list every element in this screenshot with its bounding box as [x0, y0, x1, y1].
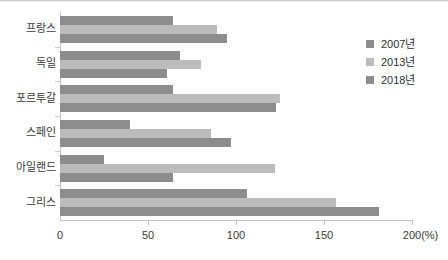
y-axis-tick: [55, 47, 61, 48]
y-axis-label-5: 그리스: [0, 197, 56, 208]
x-axis-label-200: 200(%): [403, 229, 438, 241]
bar-그리스-2018년: [60, 207, 379, 216]
bar-그리스-2013년: [60, 198, 336, 207]
x-axis-tick-150: [324, 220, 325, 225]
bar-스페인-2013년: [60, 129, 211, 138]
legend-swatch-icon: [366, 76, 374, 84]
bar-독일-2007년: [60, 51, 180, 60]
legend-label: 2013년: [381, 56, 415, 68]
bar-그리스-2007년: [60, 189, 247, 198]
x-axis-label-100: 100: [227, 229, 245, 241]
y-axis-tick: [55, 185, 61, 186]
bar-포르투갈-2018년: [60, 103, 276, 112]
x-axis-label-150: 150: [315, 229, 333, 241]
legend-item-2018년[interactable]: 2018년: [366, 74, 415, 86]
x-axis-label-0: 0: [57, 229, 63, 241]
bar-독일-2018년: [60, 69, 167, 78]
x-axis-tick-50: [148, 220, 149, 225]
y-axis-label-4: 아일랜드: [0, 162, 56, 173]
bar-스페인-2018년: [60, 138, 231, 147]
bar-포르투갈-2007년: [60, 85, 173, 94]
bar-독일-2013년: [60, 60, 201, 69]
x-axis-tick-100: [236, 220, 237, 225]
y-axis-tick: [55, 151, 61, 152]
y-axis-label-1: 독일: [0, 58, 56, 69]
y-axis-tick: [55, 116, 61, 117]
bar-프랑스-2018년: [60, 34, 227, 43]
legend-label: 2007년: [381, 38, 415, 50]
bar-아일랜드-2018년: [60, 173, 173, 182]
bar-스페인-2007년: [60, 120, 130, 129]
y-axis-label-3: 스페인: [0, 127, 56, 138]
bar-프랑스-2013년: [60, 25, 217, 34]
legend-swatch-icon: [366, 40, 374, 48]
y-axis-tick: [55, 81, 61, 82]
bar-포르투갈-2013년: [60, 94, 280, 103]
legend-item-2007년[interactable]: 2007년: [366, 38, 415, 50]
x-axis-tick-200: [412, 220, 413, 225]
y-axis-label-0: 프랑스: [0, 23, 56, 34]
y-axis-label-2: 포르투갈: [0, 93, 56, 104]
bar-아일랜드-2013년: [60, 164, 275, 173]
bar-프랑스-2007년: [60, 16, 173, 25]
legend-label: 2018년: [381, 74, 415, 86]
y-axis-category-labels: 프랑스독일포르투갈스페인아일랜드그리스: [0, 0, 56, 260]
legend-item-2013년[interactable]: 2013년: [366, 56, 415, 68]
chart-legend: 2007년2013년2018년: [366, 38, 415, 86]
x-axis-label-50: 50: [142, 229, 154, 241]
legend-swatch-icon: [366, 58, 374, 66]
bar-아일랜드-2007년: [60, 155, 104, 164]
